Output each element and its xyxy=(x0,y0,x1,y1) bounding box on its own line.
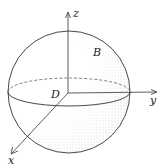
z-axis-label: z xyxy=(72,7,79,20)
sphere-diagram: z y x B D xyxy=(0,0,167,168)
y-axis-label: y xyxy=(149,94,157,107)
solid-label-b: B xyxy=(92,46,101,59)
region-label-d: D xyxy=(50,88,60,101)
sphere-shading xyxy=(8,31,130,153)
x-axis-label: x xyxy=(8,154,15,167)
